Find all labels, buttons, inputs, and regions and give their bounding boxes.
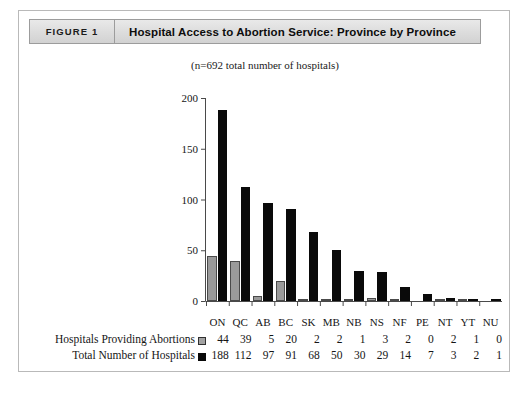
legend-label: Hospitals Providing Abortions — [55, 333, 195, 345]
legend-value: 68 — [297, 349, 320, 361]
legend-value: 0 — [411, 333, 434, 345]
x-axis-tick-labels: ONQCABBCSKMBNBNSNFPENTYTNU — [206, 316, 502, 331]
bar-group-mb — [320, 98, 343, 301]
figure-number-label: FIGURE 1 — [30, 20, 115, 43]
legend-value: 2 — [388, 333, 411, 345]
y-axis-tick-label: 150 — [182, 143, 199, 155]
bar-total-number-of-hospitals — [423, 294, 433, 301]
legend-value: 29 — [365, 349, 388, 361]
bar-group-bc — [274, 98, 297, 301]
bar-hospitals-providing-abortions — [276, 281, 286, 301]
chart-data-legend-table: Hospitals Providing Abortions44395202213… — [27, 333, 505, 365]
y-axis-tick-label: 0 — [193, 295, 199, 307]
legend-value: 2 — [456, 349, 479, 361]
y-axis-tick-label: 50 — [187, 244, 199, 256]
legend-value: 188 — [206, 349, 229, 361]
legend-value: 3 — [434, 349, 457, 361]
bar-hospitals-providing-abortions — [390, 299, 400, 301]
bar-total-number-of-hospitals — [263, 203, 273, 301]
bar-total-number-of-hospitals — [377, 272, 387, 301]
bar-group-nu — [479, 98, 502, 301]
legend-value: 39 — [229, 333, 252, 345]
x-axis-label-nf: NF — [388, 316, 411, 328]
x-axis-label-ns: NS — [365, 316, 388, 328]
x-axis-label-bc: BC — [274, 316, 297, 328]
bar-total-number-of-hospitals — [332, 250, 342, 301]
chart-bars-layer — [206, 98, 502, 301]
bar-hospitals-providing-abortions — [435, 299, 445, 301]
bar-hospitals-providing-abortions — [253, 296, 263, 301]
legend-value: 0 — [479, 333, 502, 345]
bar-hospitals-providing-abortions — [458, 299, 468, 301]
legend-value: 2 — [320, 333, 343, 345]
x-axis-label-mb: MB — [320, 316, 343, 328]
x-axis-label-yt: YT — [456, 316, 479, 328]
bar-group-ns — [365, 98, 388, 301]
legend-value: 2 — [434, 333, 457, 345]
legend-row: Total Number of Hospitals188112979168503… — [27, 349, 505, 365]
bar-group-nb — [343, 98, 366, 301]
legend-label: Total Number of Hospitals — [72, 349, 195, 361]
bar-total-number-of-hospitals — [491, 299, 501, 301]
legend-value: 30 — [343, 349, 366, 361]
figure-title: Hospital Access to Abortion Service: Pro… — [115, 20, 480, 43]
legend-row: Hospitals Providing Abortions44395202213… — [27, 333, 505, 349]
bar-hospitals-providing-abortions — [230, 261, 240, 301]
bar-group-nf — [388, 98, 411, 301]
bar-hospitals-providing-abortions — [344, 299, 354, 301]
bar-group-on — [206, 98, 229, 301]
bar-group-sk — [297, 98, 320, 301]
bar-total-number-of-hospitals — [309, 232, 319, 301]
bar-hospitals-providing-abortions — [207, 256, 217, 301]
bar-total-number-of-hospitals — [241, 187, 251, 301]
figure-container: FIGURE 1 Hospital Access to Abortion Ser… — [18, 10, 510, 372]
bar-hospitals-providing-abortions — [321, 299, 331, 301]
legend-value: 1 — [479, 349, 502, 361]
y-axis-tick-label: 200 — [182, 92, 199, 104]
bar-group-ab — [252, 98, 275, 301]
legend-swatch-gray-square-icon — [198, 337, 206, 345]
legend-value: 91 — [274, 349, 297, 361]
legend-value: 1 — [343, 333, 366, 345]
x-axis-label-nt: NT — [434, 316, 457, 328]
bar-group-yt — [456, 98, 479, 301]
legend-value: 5 — [252, 333, 275, 345]
bar-total-number-of-hospitals — [354, 271, 364, 301]
x-axis-label-sk: SK — [297, 316, 320, 328]
legend-value: 97 — [252, 349, 275, 361]
legend-value: 14 — [388, 349, 411, 361]
x-axis-label-qc: QC — [229, 316, 252, 328]
bar-total-number-of-hospitals — [286, 209, 296, 301]
x-axis-label-nu: NU — [479, 316, 502, 328]
bar-total-number-of-hospitals — [218, 110, 228, 301]
legend-value: 50 — [320, 349, 343, 361]
bar-group-qc — [229, 98, 252, 301]
figure-header-band: FIGURE 1 Hospital Access to Abortion Ser… — [29, 19, 481, 44]
bar-hospitals-providing-abortions — [367, 298, 377, 301]
y-axis-tick-label: 100 — [182, 194, 199, 206]
bar-group-pe — [411, 98, 434, 301]
x-axis-label-on: ON — [206, 316, 229, 328]
bar-group-nt — [434, 98, 457, 301]
bar-hospitals-providing-abortions — [298, 299, 308, 301]
bar-total-number-of-hospitals — [468, 299, 478, 301]
legend-value: 1 — [456, 333, 479, 345]
legend-swatch-black-square-icon — [198, 353, 206, 361]
legend-value: 20 — [274, 333, 297, 345]
legend-value: 7 — [411, 349, 434, 361]
legend-value: 44 — [206, 333, 229, 345]
x-axis-label-pe: PE — [411, 316, 434, 328]
legend-value: 112 — [229, 349, 252, 361]
legend-value: 2 — [297, 333, 320, 345]
x-axis-label-ab: AB — [252, 316, 275, 328]
legend-value: 3 — [365, 333, 388, 345]
bar-total-number-of-hospitals — [446, 298, 456, 301]
chart-subtitle: (n=692 total number of hospitals) — [19, 59, 511, 71]
bar-total-number-of-hospitals — [400, 287, 410, 301]
chart-plot-area: 050100150200 — [180, 91, 502, 313]
x-axis-label-nb: NB — [343, 316, 366, 328]
